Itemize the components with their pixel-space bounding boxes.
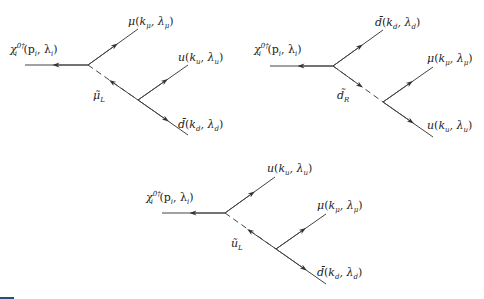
label-sub: μ	[146, 22, 151, 30]
label-main: d̄	[317, 266, 324, 279]
outgoing-particle-label: d̄(kd, λd)	[375, 17, 420, 31]
label-paren: (	[135, 15, 139, 28]
label-paren: (	[434, 119, 438, 132]
label-paren: (	[324, 266, 328, 279]
label-sub: μ	[335, 206, 340, 214]
label-main: d̄	[375, 16, 382, 29]
propagator-arrow-icon	[333, 66, 360, 86]
label-paren: (	[274, 162, 278, 175]
label-paren: )	[416, 16, 420, 29]
label-args: , λ	[281, 43, 295, 56]
label-paren: )	[219, 118, 223, 131]
label-sub: d	[335, 273, 339, 281]
label-args: (p	[159, 191, 170, 204]
propagator-label: μ̃L	[93, 90, 105, 104]
outgoing-arrow-icon	[225, 194, 252, 214]
label-sub: i	[15, 50, 17, 58]
incoming-particle-label: χ0†i (pi, λi)	[254, 43, 302, 58]
label-paren: )	[468, 119, 472, 132]
label-paren: (	[185, 51, 189, 64]
label-paren: )	[219, 51, 223, 64]
outgoing-arrow-icon	[276, 230, 303, 249]
label-paren: )	[358, 199, 362, 212]
label-sub: u	[445, 126, 450, 134]
label-paren: )	[358, 266, 362, 279]
propagator-label: ũL	[231, 238, 243, 252]
outgoing-particle-label: μ(kμ, λμ)	[128, 16, 174, 30]
label-args: (p	[267, 43, 278, 56]
feynman-diagrams-canvas	[0, 0, 484, 299]
label-sub: d	[196, 125, 200, 133]
outgoing-arrow-icon	[138, 100, 166, 120]
outgoing-arrow-icon	[138, 81, 165, 100]
label-args: , λ	[37, 43, 51, 56]
outgoing-arrow-icon	[88, 46, 115, 66]
label-sub: i	[259, 50, 261, 58]
outgoing-arrow-icon	[276, 249, 304, 269]
propagator-arrow-icon	[112, 82, 138, 100]
propagator-arrow-icon	[250, 231, 276, 249]
outgoing-arrow-icon	[383, 102, 411, 122]
label-main: d̃	[337, 89, 344, 102]
propagator-label: d̃R	[337, 90, 349, 104]
outgoing-particle-label: u(ku, λu)	[178, 52, 223, 66]
label-paren: )	[53, 43, 57, 56]
label-main: d̄	[178, 118, 185, 131]
label-sub: i	[151, 198, 153, 206]
label-paren: (	[434, 52, 438, 65]
label-sub: u	[196, 58, 201, 66]
outgoing-particle-label: μ(kμ, λμ)	[427, 53, 473, 67]
outgoing-arrow-icon	[383, 83, 410, 102]
outgoing-particle-label: d̄(kd, λd)	[178, 119, 223, 133]
outgoing-particle-label: u(ku, λu)	[267, 163, 312, 177]
outgoing-particle-label: μ(kμ, λμ)	[317, 200, 363, 214]
label-sub: L	[100, 96, 105, 104]
label-args: , λ	[173, 191, 187, 204]
outgoing-particle-label: d̄(kd, λd)	[317, 267, 362, 281]
label-sub: d	[393, 23, 397, 31]
label-paren: )	[297, 43, 301, 56]
label-paren: (	[185, 118, 189, 131]
label-paren: (	[324, 199, 328, 212]
label-sub: L	[238, 244, 243, 252]
incoming-particle-label: χ0†i (pi, λi)	[146, 191, 194, 206]
outgoing-particle-label: u(ku, λu)	[427, 120, 472, 134]
label-paren: )	[468, 52, 472, 65]
label-paren: (	[382, 16, 386, 29]
incoming-particle-label: χ0†i (pi, λi)	[10, 43, 58, 58]
label-paren: )	[169, 15, 173, 28]
outgoing-arrow-icon	[333, 47, 360, 67]
label-sub: R	[344, 96, 349, 104]
label-args: (p	[23, 43, 34, 56]
label-paren: )	[189, 191, 193, 204]
label-paren: )	[308, 162, 312, 175]
label-sub: u	[285, 169, 290, 177]
label-sub: μ	[445, 59, 450, 67]
